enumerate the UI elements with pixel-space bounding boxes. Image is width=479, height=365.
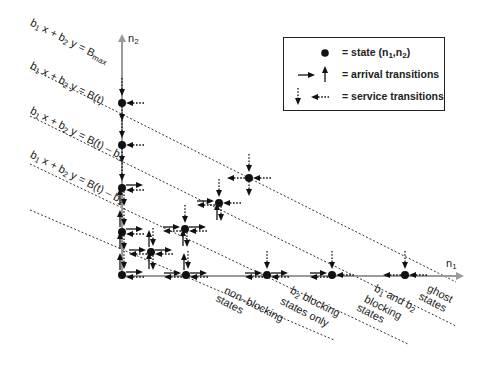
- state-4-0: [383, 251, 427, 279]
- legend-text-part: = state (n: [342, 46, 388, 58]
- n2-label-sub: 2: [134, 37, 138, 46]
- legend-text-part: ): [407, 46, 411, 58]
- legend-item-arrival: = arrival transitions: [284, 65, 444, 85]
- state-0-4: [118, 78, 144, 121]
- legend: = state (n1,n2) = arrival transitions = …: [283, 37, 445, 111]
- legend-text: = state (n1,n2): [342, 46, 410, 60]
- legend-item-service: = service transitions: [284, 87, 444, 107]
- n2-axis-label: n2: [128, 32, 139, 46]
- service-arrows-icon: [284, 87, 340, 107]
- state-3-3: [197, 179, 241, 221]
- state-diagram: n2 n1 b1 x + b2 y = Bmax b1 x + b2 y = B…: [0, 0, 479, 365]
- state-4-4: [227, 154, 271, 196]
- n1-axis-label: n1: [446, 257, 457, 271]
- filled-circle-icon: [284, 43, 340, 63]
- legend-text: = service transitions: [342, 90, 444, 102]
- state-2-2: [163, 205, 207, 247]
- state-3-0: [310, 251, 354, 280]
- state-1-1: [129, 228, 173, 270]
- legend-text-part: ,n: [393, 46, 402, 58]
- arrival-arrows-icon: [284, 65, 340, 85]
- legend-text: = arrival transitions: [342, 68, 439, 80]
- n1-label-sub: 1: [452, 262, 456, 271]
- legend-item-state: = state (n1,n2): [284, 43, 444, 63]
